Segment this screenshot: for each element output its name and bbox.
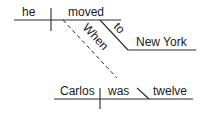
sub-complement-divider bbox=[137, 88, 149, 99]
sentence-diagram: he moved to New York When Carlos was twe… bbox=[0, 0, 206, 114]
sub-verb: was bbox=[107, 84, 129, 98]
prep-object: New York bbox=[136, 35, 188, 49]
sub-complement: twelve bbox=[153, 84, 187, 98]
main-verb: moved bbox=[68, 5, 104, 19]
subordinate-conjunction: When bbox=[80, 20, 112, 52]
sub-subject: Carlos bbox=[60, 84, 95, 98]
main-subject: he bbox=[22, 5, 36, 19]
